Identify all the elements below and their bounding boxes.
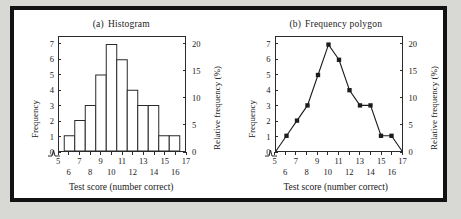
y-left-tickmark <box>275 43 278 44</box>
x-tickmark <box>338 152 339 155</box>
y-left-tickmark <box>275 136 278 137</box>
panel-title-text: Frequency polygon <box>305 19 382 29</box>
histogram-bar <box>127 90 138 151</box>
x-tick-label: 15 <box>158 157 172 166</box>
y-right-tickmark <box>183 97 186 98</box>
y-right-tick-label: 20 <box>192 40 206 49</box>
histogram-svg <box>59 37 185 151</box>
x-tick-label: 7 <box>72 157 86 166</box>
y-right-tick-label: 15 <box>192 67 206 76</box>
x-tickmark <box>90 152 91 155</box>
y-left-tickmark <box>58 105 61 106</box>
histogram-bar <box>106 45 117 151</box>
histogram-bars <box>64 45 180 151</box>
y-right-tick-label: 5 <box>192 121 206 130</box>
y-left-tickmark <box>58 59 61 60</box>
y-left-tick-label: 1 <box>43 133 54 142</box>
panel-title-frequency-polygon: (b)Frequency polygon <box>229 19 444 29</box>
x-tick-label: 16 <box>385 168 399 177</box>
x-tick-label: 11 <box>115 157 129 166</box>
y-left-tick-label: 1 <box>260 133 271 142</box>
y-left-tick-label: 3 <box>260 102 271 111</box>
x-tickmark <box>285 152 286 155</box>
polygon-marker <box>305 103 309 107</box>
histogram-bar <box>138 105 149 151</box>
x-tickmark <box>306 152 307 155</box>
y-left-tick-label: 7 <box>43 40 54 49</box>
y-left-tick-label: 4 <box>260 86 271 95</box>
x-tick-label: 6 <box>62 168 76 177</box>
x-tickmark <box>402 152 403 155</box>
polygon-plot-area <box>275 36 403 152</box>
x-tickmark <box>143 152 144 155</box>
histogram-y-right-title: Relative frequency (%) <box>212 66 222 150</box>
y-left-tick-label: 3 <box>43 102 54 111</box>
x-tickmark <box>175 152 176 155</box>
x-tickmark <box>154 152 155 155</box>
histogram-bar <box>148 105 159 151</box>
polygon-marker <box>347 88 351 92</box>
y-left-tickmark <box>58 90 61 91</box>
panel-label: (a) <box>93 19 104 29</box>
y-right-tickmark <box>183 70 186 71</box>
y-left-tickmark <box>58 74 61 75</box>
histogram-bar <box>96 75 107 151</box>
y-right-tickmark <box>400 43 403 44</box>
x-tickmark <box>100 152 101 155</box>
polygon-marker <box>326 42 330 46</box>
y-left-tick-label: 6 <box>260 55 271 64</box>
y-left-tick-label: 5 <box>43 71 54 80</box>
x-tick-label: 10 <box>104 168 118 177</box>
x-tick-label: 14 <box>147 168 161 177</box>
y-right-tickmark <box>400 97 403 98</box>
x-tick-label: 17 <box>396 157 410 166</box>
panel-histogram: (a)Histogram 01234567 05101520 579111315… <box>14 10 229 198</box>
y-right-tick-label: 20 <box>409 40 423 49</box>
y-right-tick-label: 10 <box>409 94 423 103</box>
y-left-tickmark <box>58 136 61 137</box>
polygon-x-title: Test score (number correct) <box>229 182 444 192</box>
polygon-svg <box>276 37 402 151</box>
polygon-marker <box>357 103 361 107</box>
panel-title-text: Histogram <box>108 19 150 29</box>
y-left-tickmark <box>275 105 278 106</box>
y-left-tickmark <box>275 74 278 75</box>
x-tickmark <box>391 152 392 155</box>
histogram-plot-area <box>58 36 186 152</box>
x-tick-label: 11 <box>332 157 346 166</box>
y-left-tick-label: 6 <box>43 55 54 64</box>
y-right-tick-label: 5 <box>409 121 423 130</box>
y-right-tickmark <box>183 43 186 44</box>
polygon-y-right-title: Relative frequency (%) <box>429 66 439 150</box>
x-tickmark <box>122 152 123 155</box>
x-tick-label: 9 <box>310 157 324 166</box>
figure-container: (a)Histogram 01234567 05101520 579111315… <box>10 6 447 202</box>
y-left-tickmark <box>275 121 278 122</box>
x-tickmark <box>317 152 318 155</box>
polygon-marker <box>368 103 372 107</box>
x-tick-label: 12 <box>126 168 140 177</box>
x-tick-label: 7 <box>289 157 303 166</box>
polygon-marker <box>284 134 288 138</box>
y-right-tickmark <box>400 124 403 125</box>
x-tickmark <box>132 152 133 155</box>
x-tick-label: 14 <box>364 168 378 177</box>
y-left-tickmark <box>58 43 61 44</box>
x-tickmark <box>349 152 350 155</box>
axis-break-icon <box>264 147 278 159</box>
panel-frequency-polygon: (b)Frequency polygon 01234567 05101520 5… <box>229 10 444 198</box>
x-tick-label: 13 <box>353 157 367 166</box>
x-tickmark <box>164 152 165 155</box>
x-tick-label: 13 <box>136 157 150 166</box>
histogram-bar <box>75 121 86 151</box>
x-tick-label: 8 <box>83 168 97 177</box>
x-tick-label: 17 <box>179 157 193 166</box>
histogram-bar <box>64 136 75 151</box>
y-right-tick-label: 10 <box>192 94 206 103</box>
y-left-tick-label: 7 <box>260 40 271 49</box>
y-right-tick-label: 0 <box>409 148 423 157</box>
panel-label: (b) <box>289 19 301 29</box>
histogram-y-left-title: Frequency <box>30 100 40 138</box>
x-tick-label: 9 <box>94 157 108 166</box>
polygon-marker <box>378 134 382 138</box>
